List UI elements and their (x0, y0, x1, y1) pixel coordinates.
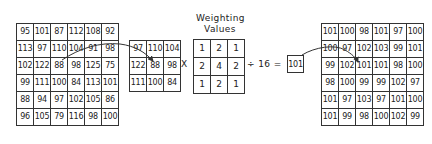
grid-cell: 100 (339, 24, 356, 41)
grid-cell: 101 (373, 24, 390, 41)
grid-cell: 84 (68, 75, 85, 92)
grid-cell: 98 (102, 41, 119, 58)
grid-row: 101 97 103 97 101 100 (322, 92, 424, 109)
grid-cell: 101 (373, 58, 390, 75)
grid-cell: 101 (390, 92, 407, 109)
grid-row: 100 97 102 103 99 101 (322, 41, 424, 58)
result-value-box: 101 (287, 55, 304, 73)
grid-cell: 97 (390, 24, 407, 41)
grid-cell: 99 (17, 75, 34, 92)
divide-by-expression: ÷ 16 = (247, 60, 282, 69)
grid-cell: 99 (390, 41, 407, 58)
grid-cell: 99 (339, 109, 356, 126)
grid-cell: 98 (164, 58, 181, 75)
output-pixel-grid: 101 100 98 101 97 100 100 97 102 103 99 … (321, 23, 424, 126)
grid-row: 95 101 87 112 108 92 (17, 24, 119, 41)
grid-cell: 102 (339, 58, 356, 75)
grid-cell: 100 (407, 58, 424, 75)
grid-cell: 102 (390, 75, 407, 92)
grid-cell: 98 (85, 109, 102, 126)
grid-cell: 99 (407, 109, 424, 126)
multiply-sign: X (181, 60, 188, 69)
grid-cell: 97 (130, 41, 147, 58)
grid-cell: 99 (373, 75, 390, 92)
grid-cell: 86 (102, 92, 119, 109)
grid-cell: 101 (407, 41, 424, 58)
grid-cell: 98 (356, 109, 373, 126)
grid-cell: 98 (68, 58, 85, 75)
grid-cell: 113 (17, 41, 34, 58)
grid-cell: 101 (102, 75, 119, 92)
grid-cell: 99 (356, 75, 373, 92)
neighborhood-window-grid: 97 110 104 122 88 98 111 100 84 (129, 40, 181, 92)
weight-cell: 4 (211, 58, 228, 76)
grid-cell: 108 (85, 24, 102, 41)
weight-cell: 2 (211, 40, 228, 58)
grid-cell: 104 (68, 41, 85, 58)
grid-cell: 91 (85, 41, 102, 58)
grid-row: 99 111 100 84 113 101 (17, 75, 119, 92)
grid-cell: 100 (147, 75, 164, 92)
grid-row: 1 2 1 (194, 40, 245, 58)
grid-row: 97 110 104 (130, 41, 181, 58)
grid-cell: 95 (17, 24, 34, 41)
grid-cell: 110 (51, 41, 68, 58)
grid-cell: 101 (34, 24, 51, 41)
grid-cell: 97 (407, 75, 424, 92)
grid-cell: 101 (322, 92, 339, 109)
grid-cell: 105 (34, 109, 51, 126)
grid-cell: 97 (51, 92, 68, 109)
grid-cell: 102 (356, 41, 373, 58)
grid-cell: 122 (130, 58, 147, 75)
grid-cell: 101 (322, 109, 339, 126)
grid-row: 88 94 97 102 105 86 (17, 92, 119, 109)
grid-cell: 98 (322, 75, 339, 92)
grid-cell-center: 88 (147, 58, 164, 75)
weight-cell: 1 (228, 76, 245, 94)
grid-cell: 110 (147, 41, 164, 58)
grid-cell: 100 (322, 41, 339, 58)
weighting-values-grid: 1 2 1 2 4 2 1 2 1 (193, 39, 245, 94)
weights-title: Weighting (196, 14, 244, 23)
grid-cell: 97 (339, 41, 356, 58)
grid-cell: 97 (339, 92, 356, 109)
grid-cell: 101 (322, 24, 339, 41)
grid-row: 102 122 88 98 125 75 (17, 58, 119, 75)
grid-cell: 87 (51, 24, 68, 41)
weight-cell: 2 (228, 58, 245, 76)
weight-cell: 2 (211, 76, 228, 94)
grid-cell: 100 (102, 109, 119, 126)
grid-cell: 105 (85, 92, 102, 109)
grid-cell: 96 (17, 109, 34, 126)
grid-cell: 98 (390, 58, 407, 75)
grid-cell: 97 (373, 92, 390, 109)
weight-cell: 2 (194, 58, 211, 76)
grid-row: 101 99 98 100 102 99 (322, 109, 424, 126)
weight-cell: 1 (194, 40, 211, 58)
grid-row: 2 4 2 (194, 58, 245, 76)
grid-cell: 100 (373, 109, 390, 126)
grid-cell: 100 (407, 92, 424, 109)
grid-row: 113 97 110 104 91 98 (17, 41, 119, 58)
grid-cell: 102 (68, 92, 85, 109)
grid-cell-highlighted: 88 (51, 58, 68, 75)
grid-cell: 92 (102, 24, 119, 41)
grid-row: 111 100 84 (130, 75, 181, 92)
grid-cell: 116 (68, 109, 85, 126)
grid-cell: 84 (164, 75, 181, 92)
grid-row: 122 88 98 (130, 58, 181, 75)
grid-row: 99 102 101 101 98 100 (322, 58, 424, 75)
input-pixel-grid: 95 101 87 112 108 92 113 97 110 104 91 9… (16, 23, 119, 126)
grid-cell: 99 (322, 58, 339, 75)
weight-cell: 1 (194, 76, 211, 94)
grid-cell: 75 (102, 58, 119, 75)
grid-row: 101 100 98 101 97 100 (322, 24, 424, 41)
grid-cell: 104 (164, 41, 181, 58)
weight-cell: 1 (228, 40, 245, 58)
grid-cell: 122 (34, 58, 51, 75)
grid-cell: 97 (34, 41, 51, 58)
grid-cell: 98 (356, 24, 373, 41)
weights-subtitle: Values (196, 25, 244, 34)
grid-cell: 102 (390, 109, 407, 126)
grid-cell: 113 (85, 75, 102, 92)
